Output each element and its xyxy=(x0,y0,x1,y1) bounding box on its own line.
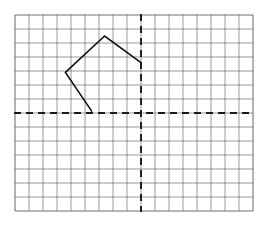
figure-background xyxy=(0,0,277,234)
coordinate-grid-figure xyxy=(0,0,277,234)
grid-canvas xyxy=(0,0,277,234)
